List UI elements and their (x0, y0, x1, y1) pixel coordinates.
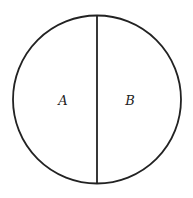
region-label-b: B (124, 93, 135, 108)
region-label-a: A (57, 93, 67, 108)
divided-circle-diagram: A B (0, 0, 193, 198)
